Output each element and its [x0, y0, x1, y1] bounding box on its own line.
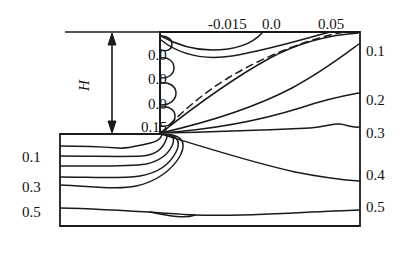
right-axis-label-0: 0.1: [366, 44, 385, 59]
upper-channel-contours: [161, 32, 358, 133]
top-axis-label-1: 0.0: [262, 17, 281, 32]
right-axis-label-4: 0.5: [366, 200, 385, 215]
contour-canvas: [0, 0, 410, 255]
left-axis-label-0: 0.1: [22, 150, 41, 165]
contour-lower-2: [60, 134, 174, 166]
contour-lower-0: [60, 135, 162, 148]
height-symbol-label: H: [77, 76, 92, 96]
inlet-contour-label-1: 0.0: [148, 72, 167, 87]
lower-region-contours: [60, 134, 359, 217]
top-axis-label-2: 0.05: [318, 17, 344, 32]
right-axis-label-3: 0.4: [366, 168, 385, 183]
contour-lower-1: [60, 134, 167, 156]
right-axis-label-1: 0.2: [366, 93, 385, 108]
domain-boundary-path: [60, 32, 360, 226]
left-axis-label-1: 0.3: [22, 180, 41, 195]
contour-lower-6: [60, 208, 359, 215]
contour-lower-5: [161, 134, 359, 181]
radiating-contours: [161, 44, 359, 133]
right-axis-label-2: 0.3: [366, 126, 385, 141]
contour-upper-0: [161, 33, 262, 50]
height-dimension-arrow: [108, 33, 116, 133]
height-arrow-head-bottom: [108, 121, 116, 133]
height-arrow-head-top: [108, 33, 116, 45]
contour-radiating-0: [161, 44, 359, 133]
inlet-contour-label-2: 0.0: [148, 97, 167, 112]
left-axis-label-2: 0.5: [22, 205, 41, 220]
contour-radiating-1: [161, 93, 359, 133]
inlet-contour-label-0: 0.0: [148, 48, 167, 63]
domain-outline: [60, 32, 360, 226]
top-axis-label-0: -0.015: [208, 17, 247, 32]
inlet-contour-label-3: 0.15: [141, 120, 167, 135]
contour-figure: -0.0150.00.05 0.00.00.00.15 0.10.30.5 0.…: [0, 0, 410, 255]
